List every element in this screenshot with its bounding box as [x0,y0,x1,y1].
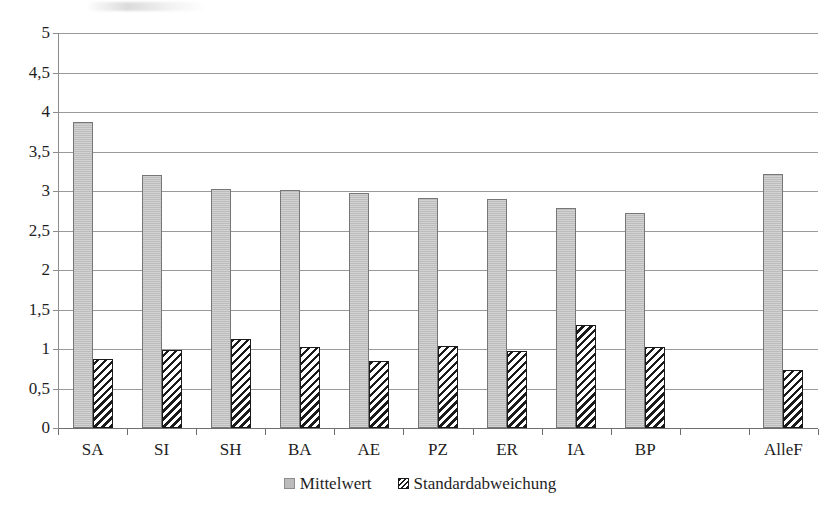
bar-mittelwert[interactable] [556,208,576,428]
bar-standardabweichung[interactable] [438,346,458,428]
x-axis-tick [749,429,750,435]
bar-group [58,33,127,428]
x-axis-tick [542,429,543,435]
bar-mittelwert[interactable] [487,199,507,428]
y-axis-tick-label: 1 [4,340,50,357]
x-axis-tick [611,429,612,435]
y-axis-tick [53,33,59,34]
bar-group [334,33,403,428]
x-axis-tick-label: SH [196,440,265,459]
x-axis-tick-label: AE [334,440,403,459]
x-axis-line [58,428,818,429]
x-axis-tick-label: BP [611,440,680,459]
bar-group [196,33,265,428]
bar-mittelwert[interactable] [142,175,162,428]
x-axis-tick [334,429,335,435]
y-axis-tick [53,73,59,74]
bar-standardabweichung[interactable] [783,370,803,428]
y-axis-tick [53,270,59,271]
y-axis-labels: 54,543,532,521,510,50 [0,0,50,514]
x-axis-tick-label: BA [265,440,334,459]
y-axis-tick-label: 3,5 [4,143,50,160]
bar-standardabweichung[interactable] [93,359,113,428]
x-axis-tick-label: PZ [403,440,472,459]
x-axis-tick [680,429,681,435]
bar-group [265,33,334,428]
x-axis-tick [818,429,819,435]
y-axis-tick-label: 5 [4,24,50,41]
bar-mittelwert[interactable] [763,174,783,428]
bar-mittelwert[interactable] [73,122,93,428]
x-axis-tick [196,429,197,435]
bar-group [403,33,472,428]
bar-mittelwert[interactable] [625,213,645,428]
x-axis-tick-label: SI [127,440,196,459]
bar-standardabweichung[interactable] [576,325,596,428]
bar-chart: 54,543,532,521,510,50 SASISHBAAEPZERIABP… [0,0,840,514]
legend-label: Mittelwert [300,474,372,493]
y-axis-tick-label: 0 [4,419,50,436]
bar-standardabweichung[interactable] [300,347,320,428]
bar-standardabweichung[interactable] [369,361,389,428]
y-axis-tick [53,152,59,153]
bar-group [749,33,818,428]
y-axis-tick-label: 2 [4,261,50,278]
gray-square-swatch-icon [284,478,295,489]
bar-group [127,33,196,428]
bar-group [680,33,749,428]
plot-area [58,33,818,428]
y-axis-tick [53,112,59,113]
y-axis-tick [53,231,59,232]
y-axis-tick-label: 3 [4,182,50,199]
scan-artifact [86,2,206,11]
y-axis-tick [53,191,59,192]
legend-label: Standardabweichung [414,474,557,493]
y-axis-tick-label: 1,5 [4,301,50,318]
y-axis-tick-label: 4 [4,103,50,120]
bar-group [611,33,680,428]
bar-mittelwert[interactable] [418,198,438,428]
bar-mittelwert[interactable] [280,190,300,428]
x-axis-tick [265,429,266,435]
y-axis-tick-label: 2,5 [4,222,50,239]
bar-standardabweichung[interactable] [645,347,665,428]
bar-standardabweichung[interactable] [231,339,251,428]
y-axis-tick-label: 0,5 [4,380,50,397]
bar-group [542,33,611,428]
chart-legend: Mittelwert Standardabweichung [0,474,840,493]
x-axis-tick [58,429,59,435]
bar-mittelwert[interactable] [211,189,231,428]
bar-mittelwert[interactable] [349,193,369,428]
x-axis-tick [403,429,404,435]
x-axis-tick [473,429,474,435]
legend-item-standardabweichung[interactable]: Standardabweichung [398,474,557,493]
y-axis-tick [53,389,59,390]
bar-standardabweichung[interactable] [507,351,527,428]
bar-standardabweichung[interactable] [162,350,182,428]
x-axis-tick-label: AlleF [749,440,818,459]
legend-item-mittelwert[interactable]: Mittelwert [284,474,372,493]
x-axis-tick [127,429,128,435]
x-axis-tick-label: IA [542,440,611,459]
y-axis-tick [53,349,59,350]
hatched-square-swatch-icon [398,478,409,489]
y-axis-tick [53,310,59,311]
bar-group [473,33,542,428]
x-axis-tick-label: ER [473,440,542,459]
y-axis-tick-label: 4,5 [4,64,50,81]
x-axis-tick-label: SA [58,440,127,459]
